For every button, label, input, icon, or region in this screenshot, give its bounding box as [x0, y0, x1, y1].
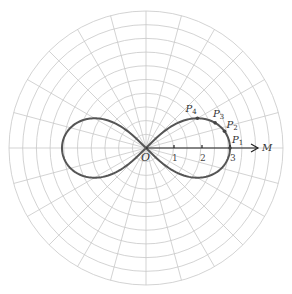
point-label-p2: P2 — [226, 119, 238, 132]
grid-spoke — [146, 80, 265, 149]
grid-spoke — [111, 148, 146, 280]
point-marker — [213, 121, 217, 125]
pole-label-o: O — [141, 151, 150, 164]
point-label-p4: P4 — [184, 103, 197, 116]
polar-lemniscate-diagram: O M 123 P1P2P3P4 — [0, 0, 292, 294]
tick-label: 2 — [200, 153, 206, 163]
point-marker — [228, 146, 232, 150]
grid-spoke — [111, 16, 146, 148]
grid-spoke — [27, 80, 146, 149]
grid-spoke — [78, 29, 147, 148]
point-label-p3: P3 — [212, 108, 224, 121]
grid-spoke — [78, 148, 147, 267]
grid-spoke — [146, 16, 181, 148]
tick-label: 3 — [230, 153, 236, 163]
grid-spoke — [27, 148, 146, 217]
point-marker — [196, 117, 200, 121]
tick-label: 1 — [172, 153, 178, 163]
grid-spoke — [146, 29, 215, 148]
axis-label-m: M — [261, 142, 273, 153]
grid-spoke — [146, 148, 181, 280]
grid-spoke — [146, 148, 215, 267]
